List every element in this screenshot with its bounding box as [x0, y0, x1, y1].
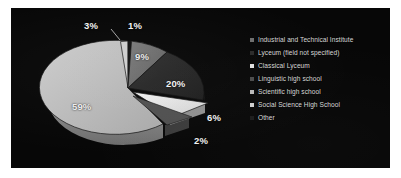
- chart-panel: 3% 1% 9% 20% 6% 2% 59% Industrial and Te…: [11, 8, 390, 168]
- legend-item-industrial[interactable]: Industrial and Technical Institute: [244, 34, 384, 46]
- legend-label: Other: [258, 114, 275, 122]
- leader-line-social-science: [111, 29, 120, 40]
- legend-label: Linguistic high school: [258, 75, 322, 83]
- legend-label: Social Science High School: [258, 101, 340, 109]
- legend-item-classical[interactable]: Classical Lyceum: [244, 60, 384, 72]
- legend-swatch-icon: [250, 51, 254, 55]
- legend-swatch-icon: [250, 64, 254, 68]
- legend-item-scientific[interactable]: Scientific high school: [244, 86, 384, 98]
- slice-label-social-science: 3%: [84, 20, 98, 31]
- legend-swatch-icon: [250, 103, 254, 107]
- legend-label: Scientific high school: [258, 88, 321, 96]
- legend-item-social-science[interactable]: Social Science High School: [244, 99, 384, 111]
- legend-label: Industrial and Technical Institute: [258, 36, 353, 44]
- legend-item-other[interactable]: Other: [244, 112, 384, 124]
- legend-swatch-icon: [250, 90, 254, 94]
- legend-item-lyceum[interactable]: Lyceum (field not specified): [244, 47, 384, 59]
- legend-label: Classical Lyceum: [258, 62, 310, 70]
- slice-label-scientific: 59%: [72, 101, 91, 112]
- slice-label-industrial: 9%: [135, 51, 149, 62]
- legend-swatch-icon: [250, 38, 254, 42]
- legend: Industrial and Technical Institute Lyceu…: [244, 34, 384, 125]
- slice-label-linguistic: 2%: [194, 135, 208, 146]
- slice-label-classical: 6%: [207, 112, 221, 123]
- slice-label-lyceum: 20%: [166, 78, 185, 89]
- legend-swatch-icon: [250, 116, 254, 120]
- pie-chart: 3% 1% 9% 20% 6% 2% 59%: [29, 18, 239, 163]
- legend-item-linguistic[interactable]: Linguistic high school: [244, 73, 384, 85]
- legend-label: Lyceum (field not specified): [258, 49, 339, 57]
- slice-label-other: 1%: [128, 20, 142, 31]
- legend-swatch-icon: [250, 77, 254, 81]
